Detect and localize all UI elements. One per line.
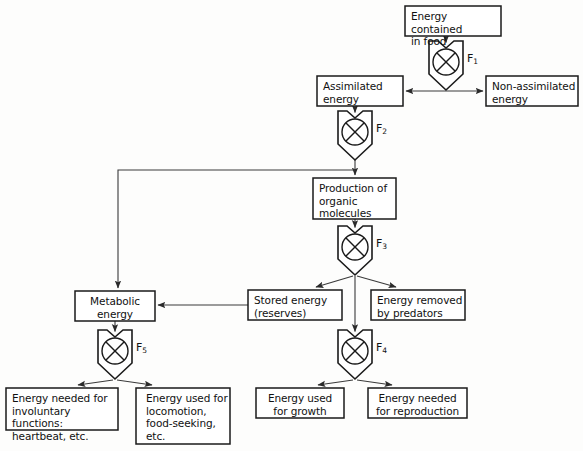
connector-f3-to-stored [316, 276, 353, 287]
valve-label-f1: F1 [467, 52, 478, 65]
valve-f5 [98, 330, 132, 379]
box-production-organic [313, 178, 396, 219]
valve-label-f2: F2 [376, 122, 387, 135]
box-layer [6, 6, 578, 444]
valve-label-f3: F3 [376, 237, 387, 250]
flow-diagram-canvas [0, 0, 583, 451]
connector-f4-to-growth [318, 380, 353, 385]
box-energy-reproduction [368, 388, 467, 418]
box-energy-in-food [405, 6, 501, 36]
valve-label-f4: F4 [376, 341, 387, 354]
box-locomotion [136, 388, 230, 444]
connector-f4-to-reproduction [357, 380, 392, 385]
valve-label-f3-subscript: 3 [382, 242, 387, 251]
connector-f5-to-locomotion [117, 380, 152, 385]
box-non-assimilated-energy [486, 76, 578, 106]
valve-label-f5-subscript: 5 [142, 346, 147, 355]
valve-f2 [338, 111, 372, 160]
energy-flow-diagram: Energy contained in food Assimilated ene… [0, 0, 583, 451]
box-stored-energy [248, 290, 342, 320]
valve-label-f5: F5 [136, 341, 147, 354]
box-metabolic-energy [75, 291, 155, 321]
valve-label-f1-subscript: 1 [473, 57, 478, 66]
valve-label-f4-subscript: 4 [382, 346, 387, 355]
connector-f3-to-predators [357, 276, 396, 287]
box-energy-growth [256, 388, 344, 418]
valve-f1 [429, 41, 463, 90]
box-assimilated-energy [317, 76, 403, 106]
box-energy-removed [371, 290, 465, 320]
connector-layer [78, 36, 483, 385]
connector-f5-to-involuntary [78, 380, 113, 385]
box-involuntary-functions [6, 388, 118, 430]
valve-label-f2-subscript: 2 [382, 127, 387, 136]
valve-layer [98, 41, 463, 379]
valve-f4 [338, 330, 372, 379]
valve-f3 [338, 226, 372, 275]
